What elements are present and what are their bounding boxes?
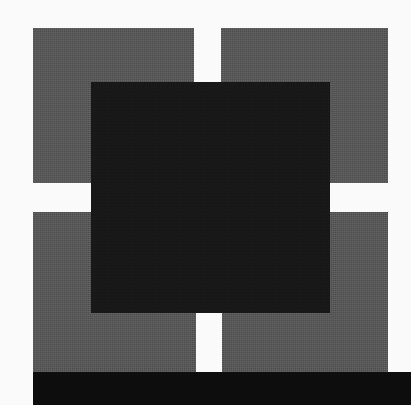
black-bar-bottom bbox=[33, 372, 411, 405]
black-square-center bbox=[91, 82, 330, 313]
composition-canvas bbox=[0, 0, 411, 405]
